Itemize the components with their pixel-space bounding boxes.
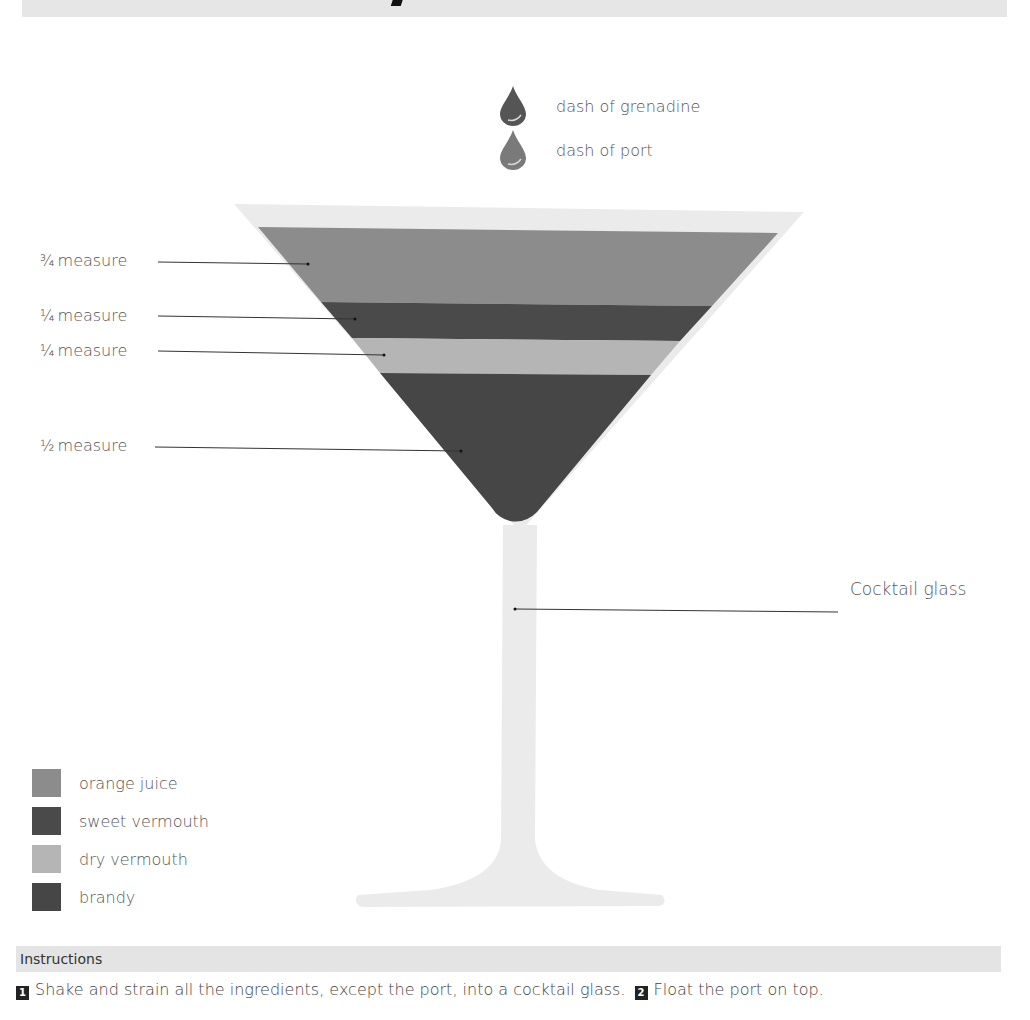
step-text: Float the port on top. bbox=[654, 980, 824, 999]
legend-item: dry vermouth bbox=[32, 840, 209, 878]
step-text: Shake and strain all the ingredients, ex… bbox=[35, 980, 625, 999]
measure-label-brandy: ½measure bbox=[40, 436, 127, 455]
legend-swatch-brandy bbox=[32, 883, 61, 911]
measure-label-orange-juice: ¾measure bbox=[40, 251, 127, 270]
layer-sweet-vermouth bbox=[321, 302, 712, 341]
leader-line bbox=[515, 609, 838, 612]
leader-line bbox=[155, 447, 461, 451]
legend-swatch-dry-vermouth bbox=[32, 845, 61, 873]
leader-line bbox=[158, 316, 355, 319]
legend-item: orange juice bbox=[32, 764, 209, 802]
glass-stem-and-base bbox=[356, 525, 665, 907]
glass-callout-label: Cocktail glass bbox=[850, 579, 966, 599]
legend-swatch-sweet-vermouth bbox=[32, 807, 61, 835]
instructions-body: 1Shake and strain all the ingredients, e… bbox=[16, 980, 1016, 1000]
step-number-badge: 1 bbox=[16, 986, 29, 1000]
instructions-header: Instructions bbox=[16, 946, 1001, 972]
leader-line bbox=[158, 351, 384, 355]
legend-item: sweet vermouth bbox=[32, 802, 209, 840]
legend-item: brandy bbox=[32, 878, 209, 916]
measure-label-dry-vermouth: ¼measure bbox=[40, 341, 127, 360]
step-number-badge: 2 bbox=[635, 986, 648, 1000]
legend-swatch-orange-juice bbox=[32, 769, 61, 797]
layer-orange-juice bbox=[258, 227, 778, 306]
layer-brandy bbox=[380, 373, 651, 522]
measure-label-sweet-vermouth: ¼measure bbox=[40, 306, 127, 325]
ingredient-legend: orange juice sweet vermouth dry vermouth… bbox=[32, 764, 209, 916]
layer-dry-vermouth bbox=[352, 338, 680, 375]
